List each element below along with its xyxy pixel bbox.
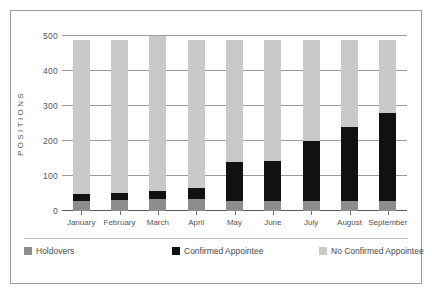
x-tick-label: April [188, 218, 204, 227]
bar-segment-confirmed-appointee[interactable] [303, 141, 320, 201]
bar-segment-holdovers[interactable] [111, 200, 128, 211]
bar-segment-holdovers[interactable] [73, 201, 90, 212]
x-tick [273, 211, 274, 215]
bar-segment-confirmed-appointee[interactable] [188, 188, 205, 199]
bar-segment-no-confirmed-appointee[interactable] [226, 40, 243, 163]
bar-segment-no-confirmed-appointee[interactable] [341, 40, 358, 128]
bar-column[interactable] [226, 36, 243, 211]
chart-figure: POSITIONS 0100200300400500 JanuaryFebrua… [0, 0, 432, 294]
bar-segment-holdovers[interactable] [264, 201, 281, 212]
x-tick-label: March [147, 218, 169, 227]
x-tick [350, 211, 351, 215]
x-axis-ticks [62, 211, 407, 216]
legend-separator [24, 238, 408, 239]
x-tick-label: July [304, 218, 318, 227]
x-tick [311, 211, 312, 215]
bar-column[interactable] [111, 36, 128, 211]
bar-segment-confirmed-appointee[interactable] [341, 127, 358, 201]
x-tick-label: May [227, 218, 242, 227]
legend-item[interactable]: No Confirmed Appointee [319, 246, 424, 256]
x-tick-label: August [337, 218, 362, 227]
bar-segment-no-confirmed-appointee[interactable] [149, 36, 166, 191]
x-axis-tick-labels: JanuaryFebruaryMarchAprilMayJuneJulyAugu… [62, 218, 407, 232]
bar-segment-holdovers[interactable] [188, 199, 205, 211]
x-tick [235, 211, 236, 215]
legend-item[interactable]: Confirmed Appointee [172, 246, 263, 256]
bar-segment-holdovers[interactable] [226, 201, 243, 212]
bar-column[interactable] [264, 36, 281, 211]
bar-column[interactable] [341, 36, 358, 211]
legend-item[interactable]: Holdovers [24, 246, 74, 256]
x-tick-label: September [368, 218, 407, 227]
x-tick [120, 211, 121, 215]
y-tick-label: 500 [18, 31, 58, 41]
bar-column[interactable] [303, 36, 320, 211]
bar-segment-holdovers[interactable] [303, 201, 320, 212]
bar-column[interactable] [73, 36, 90, 211]
legend-swatch-icon [319, 247, 327, 255]
bar-segment-holdovers[interactable] [341, 201, 358, 212]
y-tick-label: 400 [18, 66, 58, 76]
legend-label: No Confirmed Appointee [331, 246, 424, 256]
x-tick-label: January [67, 218, 95, 227]
bar-segment-confirmed-appointee[interactable] [73, 194, 90, 200]
y-tick-label: 100 [18, 171, 58, 181]
y-tick-label: 200 [18, 136, 58, 146]
bar-column[interactable] [149, 36, 166, 211]
legend-swatch-icon [172, 247, 180, 255]
bar-segment-confirmed-appointee[interactable] [226, 162, 243, 201]
bar-column[interactable] [379, 36, 396, 211]
y-axis-tick-labels: 0100200300400500 [14, 36, 58, 211]
x-tick [388, 211, 389, 215]
bar-segment-no-confirmed-appointee[interactable] [73, 40, 90, 195]
bar-segment-confirmed-appointee[interactable] [111, 193, 128, 200]
bar-segment-confirmed-appointee[interactable] [264, 161, 281, 200]
bar-segment-no-confirmed-appointee[interactable] [188, 40, 205, 189]
y-tick-label: 300 [18, 101, 58, 111]
bar-segment-holdovers[interactable] [379, 201, 396, 212]
bar-segment-holdovers[interactable] [149, 199, 166, 211]
bar-segment-no-confirmed-appointee[interactable] [111, 40, 128, 193]
x-tick-label: February [103, 218, 135, 227]
y-tick-label: 0 [18, 206, 58, 216]
bar-segment-no-confirmed-appointee[interactable] [379, 40, 396, 114]
x-tick-label: June [264, 218, 281, 227]
bar-segment-no-confirmed-appointee[interactable] [303, 40, 320, 142]
x-tick [196, 211, 197, 215]
bar-segment-no-confirmed-appointee[interactable] [264, 40, 281, 162]
bar-column[interactable] [188, 36, 205, 211]
bar-segment-confirmed-appointee[interactable] [379, 113, 396, 201]
x-tick [81, 211, 82, 215]
legend-swatch-icon [24, 247, 32, 255]
legend-label: Holdovers [36, 246, 74, 256]
legend-label: Confirmed Appointee [184, 246, 263, 256]
bar-segment-confirmed-appointee[interactable] [149, 191, 166, 199]
chart-legend: HoldoversConfirmed AppointeeNo Confirmed… [24, 243, 408, 259]
plot-area [62, 36, 407, 211]
x-tick [158, 211, 159, 215]
